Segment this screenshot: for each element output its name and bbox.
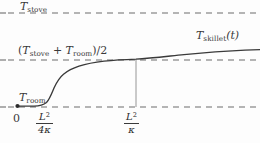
origin-dot xyxy=(15,104,19,108)
label-t-mid-close: )/2 xyxy=(92,44,107,57)
tick-label-l2-over-kappa: L2 κ xyxy=(124,112,139,135)
label-t-mid-symbol-a: T xyxy=(22,44,29,57)
label-t-mid-subscript-b: room xyxy=(73,49,92,58)
skillet-temperature-figure: Tstove (Tstove + Troom)/2 Troom Tskillet… xyxy=(0,0,260,143)
label-t-mid-symbol-b: T xyxy=(66,44,73,57)
label-t-skillet-argument: (t) xyxy=(226,29,239,42)
label-t-skillet-subscript: skillet xyxy=(203,34,226,43)
left-edge-stubs xyxy=(0,13,6,107)
tick-label-l2-over-4kappa: L2 4κ xyxy=(36,112,53,135)
label-t-room: Troom xyxy=(19,92,46,104)
label-t-mid-plus: + xyxy=(49,44,65,57)
label-t-stove: Tstove xyxy=(20,1,47,13)
tick-1-numerator-exponent: 2 xyxy=(46,111,50,119)
label-origin: 0 xyxy=(13,113,20,124)
label-t-mid-subscript-a: stove xyxy=(30,49,50,58)
tick-2-denominator: κ xyxy=(124,125,139,136)
label-t-room-subscript: room xyxy=(26,96,45,105)
tick-1-denominator: 4κ xyxy=(36,125,53,136)
label-t-skillet-curve: Tskillet(t) xyxy=(196,30,239,42)
tick-2-numerator-symbol: L xyxy=(126,111,133,122)
tick-2-numerator: L2 xyxy=(124,112,139,123)
t-skillet-curve xyxy=(17,50,260,107)
tick-1-numerator: L2 xyxy=(36,112,53,123)
tick-1-numerator-symbol: L xyxy=(39,111,46,122)
label-t-stove-subscript: stove xyxy=(27,5,47,14)
tick-2-numerator-exponent: 2 xyxy=(133,111,137,119)
label-t-mid: (Tstove + Troom)/2 xyxy=(18,45,107,57)
